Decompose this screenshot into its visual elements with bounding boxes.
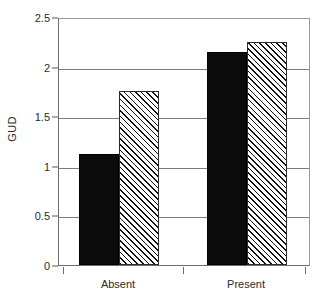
y-axis-tick-label: 2: [22, 62, 50, 74]
x-axis-tick-mark: [183, 267, 184, 274]
bar-chart: GUD 00.511.522.5 AbsentPresent: [0, 0, 318, 299]
x-axis-tick-mark: [63, 267, 64, 274]
x-axis-tick-labels: AbsentPresent: [58, 278, 310, 296]
bar-absent-hatched: [119, 91, 159, 265]
y-axis-tick-label: 2.5: [22, 12, 50, 24]
bar-absent-solid-black: [79, 154, 119, 265]
y-axis-title: GUD: [6, 99, 18, 159]
y-axis-tick-label: 1: [22, 161, 50, 173]
y-axis-tick-labels: 00.511.522.5: [22, 0, 50, 299]
x-axis-tick-mark: [305, 267, 306, 274]
x-axis-tick-label: Present: [227, 278, 265, 290]
plot-area: [58, 18, 310, 266]
y-axis-tick-label: 1.5: [22, 111, 50, 123]
bar-present-hatched: [247, 42, 287, 265]
x-axis-tick-label: Absent: [101, 278, 135, 290]
bar-present-solid-black: [207, 52, 247, 265]
bars-layer: [59, 19, 309, 265]
y-axis-tick-label: 0: [22, 260, 50, 272]
y-axis-tick-label: 0.5: [22, 210, 50, 222]
